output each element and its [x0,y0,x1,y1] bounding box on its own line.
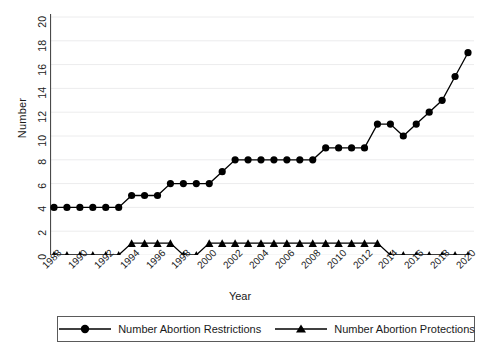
circle-marker-icon [57,322,113,336]
chart-figure: Number 02468101214161820 198819901992199… [0,0,480,355]
legend-item-protections[interactable]: Number Abortion Protections [267,322,480,336]
x-axis-title: Year [0,290,480,302]
y-tick-label: 8 [36,159,48,183]
y-tick-label: 20 [36,16,48,40]
y-tick-label: 2 [36,230,48,254]
y-tick-label: 12 [36,111,48,135]
legend-label-restrictions: Number Abortion Restrictions [118,323,261,335]
y-axis-title: Number [16,78,28,158]
plot-area [50,14,474,255]
legend-item-restrictions[interactable]: Number Abortion Restrictions [51,322,267,336]
legend-label-protections: Number Abortion Protections [334,323,475,335]
plot-canvas [50,14,474,255]
y-tick-label: 18 [36,40,48,64]
chart-legend: Number Abortion Restrictions Number Abor… [57,316,475,342]
y-tick-label: 16 [36,64,48,88]
y-tick-label: 14 [36,87,48,111]
y-tick-label: 4 [36,206,48,230]
y-tick-label: 6 [36,183,48,207]
triangle-marker-icon [273,322,329,336]
y-tick-label: 10 [36,135,48,159]
